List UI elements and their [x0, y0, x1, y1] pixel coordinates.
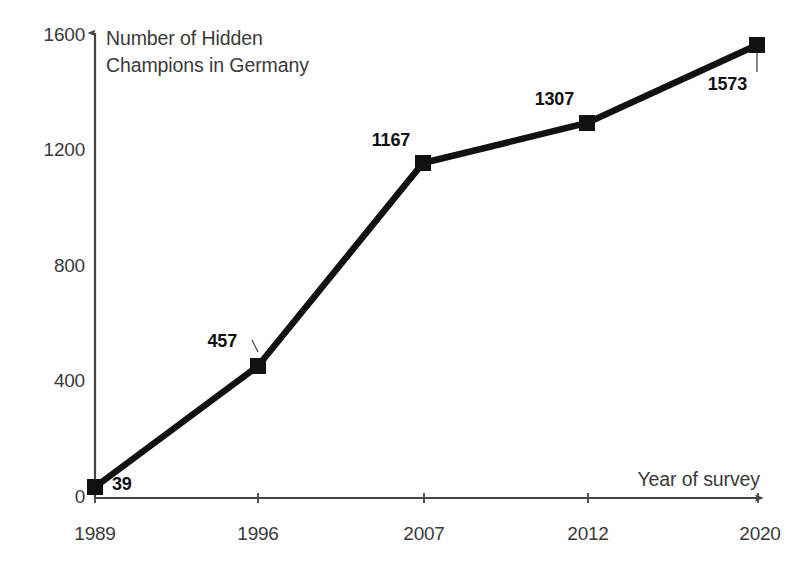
x-axis-title: Year of survey — [637, 468, 760, 490]
data-point-marker-2020 — [749, 37, 765, 53]
x-tick-text-2007: 2007 — [403, 523, 444, 544]
x-tick-text-1996: 1996 — [237, 523, 278, 544]
data-line — [95, 45, 757, 487]
data-point-label-2007: 1167 — [372, 130, 410, 150]
data-point-label-2020: 1573 — [708, 74, 747, 94]
data-point-label-1989: 39 — [112, 474, 132, 494]
data-point-marker-1989 — [87, 479, 103, 495]
chart-canvas: 1600 1200 800 400 0 Number of Hidden Cha… — [0, 0, 801, 561]
data-point-marker-1996 — [250, 358, 266, 374]
x-tick-text-2020: 2020 — [739, 523, 780, 544]
y-tick-label-400: 400 — [54, 370, 85, 391]
y-axis-title-line2: Champions in Germany — [106, 54, 309, 76]
y-tick-label-0: 0 — [75, 486, 85, 507]
data-point-marker-2012 — [579, 115, 595, 131]
data-point-marker-2007 — [415, 155, 431, 171]
y-axis-title-line1: Number of Hidden — [106, 27, 263, 49]
y-tick-label-1200: 1200 — [44, 139, 85, 160]
data-point-label-1996: 457 — [208, 331, 238, 351]
y-tick-label-800: 800 — [54, 255, 85, 276]
leader-line-457 — [252, 340, 258, 352]
y-tick-label-1600: 1600 — [44, 24, 85, 45]
line-chart: 1600 1200 800 400 0 Number of Hidden Cha… — [0, 0, 801, 561]
x-tick-text-2012: 2012 — [567, 523, 608, 544]
data-point-label-2012: 1307 — [535, 89, 574, 109]
x-tick-text-1989: 1989 — [74, 523, 115, 544]
